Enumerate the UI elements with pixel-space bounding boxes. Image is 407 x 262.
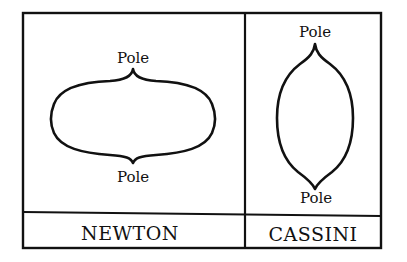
- prolate-earth-shape: [277, 44, 353, 189]
- newton-top-pole-label: Pole: [117, 49, 149, 67]
- cassini-caption: CASSINI: [268, 223, 357, 245]
- oblate-earth-shape: [51, 69, 215, 163]
- cassini-bottom-pole-label: Pole: [300, 189, 332, 207]
- newton-caption: NEWTON: [81, 222, 179, 244]
- earth-shape-diagram: Pole Pole NEWTON Pole Pole CASSINI: [0, 0, 407, 262]
- cassini-top-pole-label: Pole: [299, 23, 331, 41]
- caption-divider: [23, 212, 381, 216]
- newton-bottom-pole-label: Pole: [117, 168, 149, 186]
- cassini-panel: Pole Pole CASSINI: [268, 23, 357, 245]
